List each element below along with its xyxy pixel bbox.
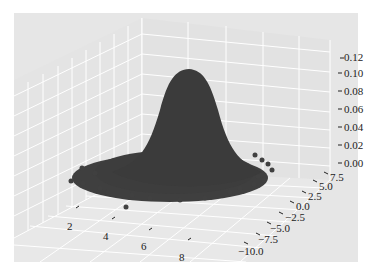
x-tick-label: 4 xyxy=(103,230,109,242)
x-tick-label: 8 xyxy=(179,251,185,263)
z-tick-labels: 0.00 0.02 0.04 0.06 0.08 0.10 0.12 xyxy=(344,51,364,169)
z-tick-label: 0.04 xyxy=(344,121,364,133)
z-tick-label: 0.08 xyxy=(344,85,364,97)
x-tick-label: 6 xyxy=(141,240,147,252)
y-tick-label: −5.0 xyxy=(270,222,290,234)
y-tick-label: −7.5 xyxy=(258,233,278,245)
z-tick-label: 0.00 xyxy=(344,157,364,169)
y-tick-label: −2.5 xyxy=(285,211,305,223)
y-tick-label: 7.5 xyxy=(330,171,344,183)
z-tick-label: 0.12 xyxy=(344,51,363,63)
z-tick-label: 0.10 xyxy=(344,67,364,79)
3d-axes: 0.00 0.02 0.04 0.06 0.08 0.10 0.12 −10.0… xyxy=(0,0,374,276)
z-tick-label: 0.06 xyxy=(344,103,364,115)
y-tick-label: −10.0 xyxy=(238,245,264,257)
z-tick-label: 0.02 xyxy=(344,139,363,151)
x-tick-label: 2 xyxy=(67,220,73,232)
figure: 0.00 0.02 0.04 0.06 0.08 0.10 0.12 −10.0… xyxy=(0,0,374,276)
